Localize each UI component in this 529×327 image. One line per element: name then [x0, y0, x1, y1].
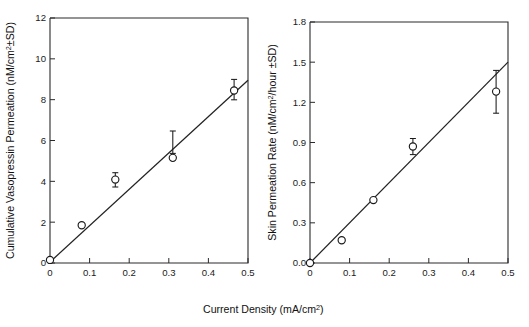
left-x-ticklabel-0: 0 [47, 267, 52, 278]
right-x-ticklabel-0.1: 0.1 [343, 267, 356, 278]
left-y-ticklabel-12: 12 [35, 12, 46, 23]
right-y-title-part-b: /hour ±SD) [266, 44, 278, 95]
right-x-ticklabel-0.5: 0.5 [501, 267, 514, 278]
right-y-ticklabel-1.2: 1.2 [293, 97, 306, 108]
data-point [338, 237, 345, 244]
right-y-ticklabel-1.5: 1.5 [293, 57, 306, 68]
left-y-ticklabel-10: 10 [35, 53, 46, 64]
left-x-ticklabel-0.3: 0.3 [162, 267, 175, 278]
right-panel-y-ticklabels: 0.0 0.3 0.6 0.9 1.2 1.5 1.8 [293, 16, 306, 268]
right-y-ticklabel-0.6: 0.6 [293, 177, 306, 188]
left-panel-y-ticks [50, 18, 55, 263]
left-panel-y-ticklabels: 0 2 4 6 8 10 12 [35, 12, 46, 268]
right-x-ticklabel-0: 0 [307, 267, 312, 278]
left-x-ticklabel-0.2: 0.2 [123, 267, 136, 278]
right-panel-fit-line [310, 62, 508, 263]
left-y-ticklabel-6: 6 [41, 135, 46, 146]
left-y-ticklabel-4: 4 [41, 176, 47, 187]
figure-container: 0 2 4 6 8 10 12 0 0.1 0.2 0.3 [0, 0, 529, 327]
right-panel-frame [310, 22, 508, 263]
left-y-ticklabel-0: 0 [41, 257, 46, 268]
data-point [169, 154, 176, 161]
data-point [46, 256, 53, 263]
data-point [306, 259, 313, 266]
right-y-ticklabel-0.0: 0.0 [293, 257, 306, 268]
data-point [112, 176, 119, 183]
x-title-part-a: Current Density (mA/cm [203, 303, 316, 315]
svg-text:Skin Permeation Rate (nM/cm2/h: Skin Permeation Rate (nM/cm2/hour ±SD) [266, 44, 278, 240]
left-x-ticklabel-0.5: 0.5 [241, 267, 254, 278]
right-y-ticklabel-0.9: 0.9 [293, 137, 306, 148]
left-panel-y-axis-title: Cumulative Vasopressin Permeation (nM/cm… [4, 22, 16, 259]
data-point [78, 222, 85, 229]
figure-svg: 0 2 4 6 8 10 12 0 0.1 0.2 0.3 [0, 0, 529, 327]
left-y-ticklabel-8: 8 [41, 94, 46, 105]
left-x-ticklabel-0.4: 0.4 [202, 267, 216, 278]
left-panel-x-ticks [50, 258, 248, 263]
right-x-ticklabel-0.3: 0.3 [422, 267, 435, 278]
right-y-title-part-a: Skin Permeation Rate (nM/cm [266, 99, 278, 240]
right-panel-x-ticks [310, 258, 508, 263]
data-point [370, 196, 377, 203]
shared-x-axis-title: Current Density (mA/cm2) [203, 303, 324, 315]
left-y-title-part-a: Cumulative Vasopressin Permeation (nM/cm [4, 50, 16, 259]
data-point [493, 88, 500, 95]
data-point [409, 143, 416, 150]
left-y-title-part-b: ±SD) [4, 22, 16, 46]
left-panel-fit-line [50, 80, 248, 262]
left-panel-data-points [46, 87, 237, 264]
left-panel-x-ticklabels: 0 0.1 0.2 0.3 0.4 0.5 [47, 267, 254, 278]
data-point [231, 87, 238, 94]
x-title-part-b: ) [320, 303, 324, 315]
right-panel-data-points [306, 88, 499, 267]
svg-text:Cumulative Vasopressin Permeat: Cumulative Vasopressin Permeation (nM/cm… [4, 22, 16, 259]
right-x-ticklabel-0.4: 0.4 [462, 267, 476, 278]
right-panel-y-axis-title: Skin Permeation Rate (nM/cm2/hour ±SD) [266, 44, 278, 240]
right-x-ticklabel-0.2: 0.2 [383, 267, 396, 278]
left-y-ticklabel-2: 2 [41, 217, 46, 228]
left-panel: 0 2 4 6 8 10 12 0 0.1 0.2 0.3 [4, 12, 255, 278]
left-panel-error-bars [112, 79, 237, 187]
svg-text:Current Density (mA/cm2): Current Density (mA/cm2) [203, 303, 324, 315]
right-y-ticklabel-1.8: 1.8 [293, 16, 306, 27]
right-panel-error-bars [410, 70, 499, 154]
right-panel-x-ticklabels: 0 0.1 0.2 0.3 0.4 0.5 [307, 267, 514, 278]
left-x-ticklabel-0.1: 0.1 [83, 267, 96, 278]
right-panel: 0.0 0.3 0.6 0.9 1.2 1.5 1.8 0 0.1 0.2 [266, 16, 515, 278]
right-panel-y-ticks [310, 22, 315, 263]
right-y-ticklabel-0.3: 0.3 [293, 217, 306, 228]
